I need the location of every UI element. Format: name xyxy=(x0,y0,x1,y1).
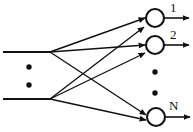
output-ellipsis-dots xyxy=(152,69,157,95)
connection-fanout-bottom-to-neuron-n xyxy=(50,99,146,120)
neuron-circle-n xyxy=(147,108,165,126)
neuron-circle-1 xyxy=(146,9,164,27)
neural-network-diagram: 1 2 N xyxy=(0,0,193,132)
neuron-circle-2 xyxy=(146,36,164,54)
output-label-n: N xyxy=(169,99,178,112)
connection-fanout-bottom-to-neuron-1 xyxy=(50,27,144,99)
output-label-2: 2 xyxy=(170,28,177,41)
connection-fanout-top-to-neuron-1 xyxy=(50,18,145,52)
connection-fanout-top-to-neuron-2 xyxy=(50,45,145,52)
neuron-nodes xyxy=(146,9,165,126)
output-ellipsis-dot-1 xyxy=(152,69,157,74)
input-ellipsis-dot-1 xyxy=(26,64,31,69)
diagram-canvas xyxy=(0,0,193,132)
input-ellipsis-dot-2 xyxy=(26,82,31,87)
input-lines xyxy=(3,52,51,99)
output-ellipsis-dot-2 xyxy=(152,90,157,95)
input-ellipsis-dots xyxy=(26,64,31,87)
connection-fanout-bottom-to-neuron-2 xyxy=(50,53,145,99)
output-label-1: 1 xyxy=(170,1,177,14)
connection-lines xyxy=(50,18,146,120)
